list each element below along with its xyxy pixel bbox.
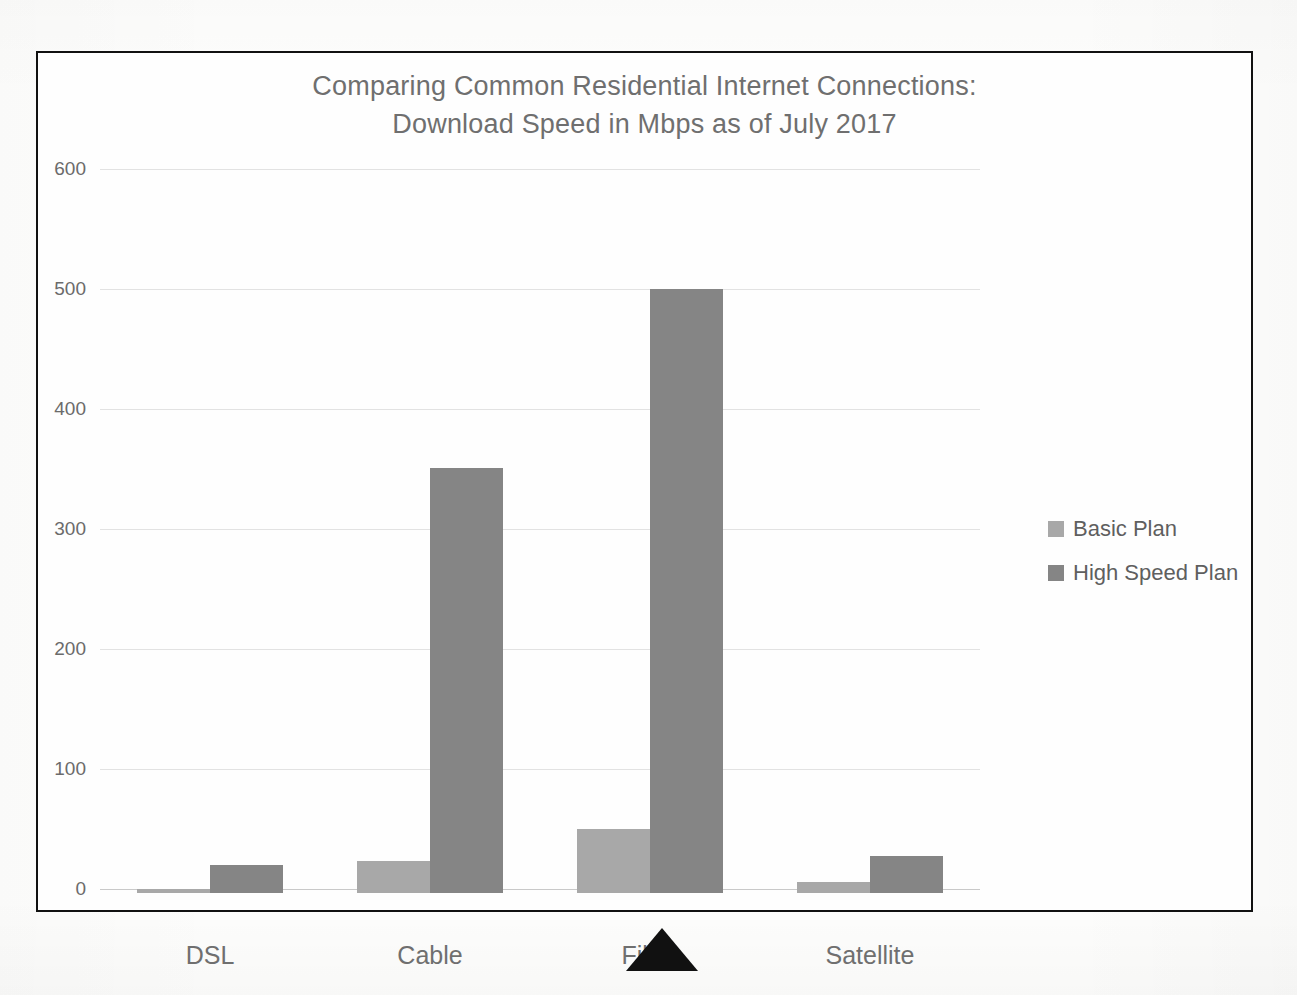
legend-item-basic-plan[interactable]: Basic Plan (1048, 516, 1238, 542)
y-axis-tick-label: 0 (75, 878, 86, 900)
bar-group-dsl (100, 173, 320, 893)
y-axis-tick-label: 200 (54, 638, 86, 660)
x-axis-labels: DSLCableFiberSatellite (100, 941, 980, 970)
gridline: 600 (100, 169, 980, 170)
chart-frame: Comparing Common Residential Internet Co… (36, 51, 1253, 912)
y-axis-tick-label: 400 (54, 398, 86, 420)
legend-swatch-icon (1048, 565, 1064, 581)
x-axis-label-dsl: DSL (100, 941, 320, 970)
bar-group-satellite (760, 173, 980, 893)
bar-cable-high-speed-plan (430, 468, 503, 893)
legend-label: Basic Plan (1073, 516, 1177, 542)
bar-satellite-high-speed-plan (870, 856, 943, 893)
y-axis-tick-label: 100 (54, 758, 86, 780)
bar-fiber-high-speed-plan (650, 289, 723, 893)
legend-swatch-icon (1048, 521, 1064, 537)
bar-cable-basic-plan (357, 861, 430, 893)
legend-label: High Speed Plan (1073, 560, 1238, 586)
bar-group-cable (320, 173, 540, 893)
bar-satellite-basic-plan (797, 882, 870, 893)
plot-area: 0100200300400500600 DSLCableFiberSatelli… (100, 121, 980, 893)
y-axis-tick-label: 500 (54, 278, 86, 300)
chart-legend: Basic PlanHigh Speed Plan (1048, 516, 1238, 604)
bar-fiber-basic-plan (577, 829, 650, 893)
x-axis-label-cable: Cable (320, 941, 540, 970)
bar-dsl-high-speed-plan (210, 865, 283, 893)
bar-dsl-basic-plan (137, 889, 210, 893)
chart-title-line-1: Comparing Common Residential Internet Co… (312, 71, 976, 101)
y-axis-tick-label: 600 (54, 158, 86, 180)
bar-group-fiber (540, 173, 760, 893)
legend-item-high-speed-plan[interactable]: High Speed Plan (1048, 560, 1238, 586)
bar-series-container (100, 173, 980, 893)
y-axis-tick-label: 300 (54, 518, 86, 540)
x-axis-label-satellite: Satellite (760, 941, 980, 970)
up-triangle-pointer-icon (626, 928, 698, 971)
